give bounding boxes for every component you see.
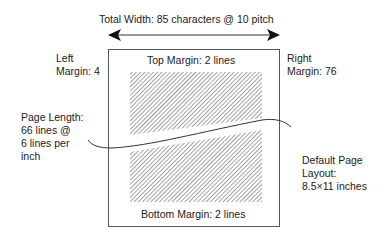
left-margin-label: Left Margin: 4 xyxy=(56,52,100,78)
right-margin-label: Right Margin: 76 xyxy=(287,52,337,78)
default-layout-label: Default Page Layout: 8.5×11 inches xyxy=(302,154,367,193)
bottom-text-area xyxy=(130,130,262,202)
page-length-label: Page Length: 66 lines @ 6 lines per inch xyxy=(21,111,83,163)
bottom-margin-label: Bottom Margin: 2 lines xyxy=(141,208,245,221)
total-width-arrow xyxy=(108,29,280,41)
top-text-area xyxy=(130,72,262,135)
total-width-label: Total Width: 85 characters @ 10 pitch xyxy=(99,13,274,26)
top-margin-label: Top Margin: 2 lines xyxy=(147,54,235,67)
